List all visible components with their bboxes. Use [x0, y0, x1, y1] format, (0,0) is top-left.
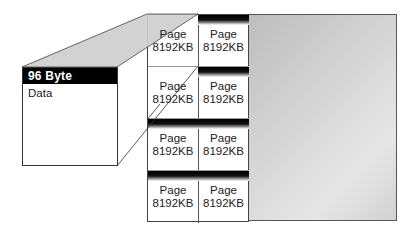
- page-label: Page: [160, 132, 187, 145]
- page-label: Page: [210, 132, 237, 145]
- page-size: 8192KB: [203, 145, 244, 158]
- page-label: Page: [160, 184, 187, 197]
- page-size: 8192KB: [153, 145, 194, 158]
- page-size: 8192KB: [203, 41, 244, 54]
- page-label: Page: [210, 80, 237, 93]
- page-label: Page: [210, 184, 237, 197]
- page-size: 8192KB: [153, 93, 194, 106]
- page-size: 8192KB: [203, 197, 244, 210]
- header-bar: 96 Byte Header: [23, 68, 117, 84]
- page-label: Page: [210, 28, 237, 41]
- page-structure-box: 96 Byte Header Data: [22, 67, 118, 166]
- projection-line-mid: [147, 104, 160, 120]
- page-label: Page: [160, 80, 187, 93]
- page-size: 8192KB: [153, 197, 194, 210]
- page-size: 8192KB: [153, 41, 194, 54]
- data-label: Data: [23, 84, 117, 99]
- page-size: 8192KB: [203, 93, 244, 106]
- page-label: Page: [160, 28, 187, 41]
